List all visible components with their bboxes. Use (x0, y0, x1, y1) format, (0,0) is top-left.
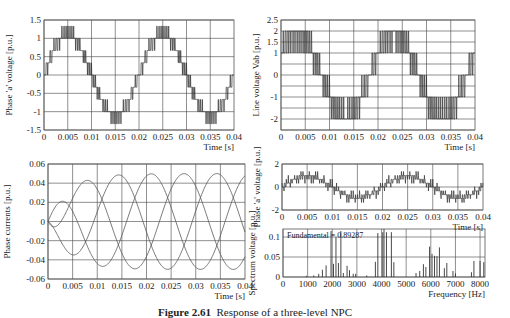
x-axis-label: Time [s] (215, 291, 245, 301)
y-tick-label: 1 (37, 33, 42, 43)
y-tick-label: -2 (271, 114, 279, 124)
y-tick-label: -0.04 (26, 255, 45, 265)
y-tick-label: -0.5 (27, 88, 42, 98)
y-tick-label: 0 (275, 182, 280, 192)
x-tick-label: 6000 (422, 279, 441, 289)
x-tick-label: 0.03 (425, 212, 441, 222)
x-tick-label: 8000 (471, 279, 490, 289)
x-tick-label: 0.005 (58, 132, 79, 142)
chart-phase-currents: 00.0050.010.0150.020.0250.030.0350.040.0… (2, 159, 253, 301)
x-tick-label: 0.01 (322, 132, 338, 142)
y-tick-label: -0.02 (26, 236, 45, 246)
y-tick-label: -0.06 (26, 274, 45, 284)
caption-label: Figure 2.61 (158, 306, 211, 318)
x-tick-label: 0.04 (467, 132, 483, 142)
x-tick-label: 0 (279, 132, 284, 142)
x-tick-label: 0.015 (105, 132, 126, 142)
y-tick-label: -2 (272, 205, 280, 215)
x-axis-label: Frequency [Hz] (428, 289, 485, 299)
chart-phase-a-voltage-small: 00.0050.010.0150.020.0250.030.0350.0420-… (252, 147, 491, 232)
x-tick-label: 3000 (348, 279, 367, 289)
x-tick-label: 0.025 (392, 132, 413, 142)
x-tick-label: 0.035 (448, 212, 469, 222)
y-tick-label: 2.5 (267, 15, 279, 25)
x-tick-label: 0.02 (139, 281, 155, 291)
x-tick-label: 0.005 (63, 281, 84, 291)
x-tick-label: 4000 (373, 279, 392, 289)
x-tick-label: 0.005 (297, 212, 318, 222)
y-tick-label: 0 (276, 272, 281, 282)
y-axis-label: Phase 'a' voltage [p.u.] (4, 35, 14, 116)
y-tick-label: 0 (37, 70, 42, 80)
x-tick-label: 0.02 (131, 132, 147, 142)
y-tick-label: 0.06 (29, 159, 45, 169)
y-axis-label: Spectrum voltage [p.u.] (247, 211, 257, 296)
x-tick-label: 0.035 (200, 132, 221, 142)
x-tick-label: 0.02 (375, 212, 391, 222)
x-tick-label: 0.015 (344, 132, 365, 142)
x-tick-label: 0.025 (398, 212, 419, 222)
y-tick-label: 1.5 (267, 37, 279, 47)
figure-caption: Figure 2.61 Response of a three-level NP… (0, 306, 510, 318)
x-tick-label: 0.03 (179, 132, 195, 142)
x-tick-label: 0.03 (419, 132, 435, 142)
y-axis-label: Phase currents [p.u.] (2, 185, 12, 259)
x-tick-label: 0.015 (347, 212, 368, 222)
y-tick-label: 1.5 (30, 15, 42, 25)
y-tick-label: 0.05 (264, 252, 280, 262)
x-axis-label: Time [s] (453, 222, 483, 232)
x-tick-label: 0 (42, 132, 47, 142)
x-axis-label: Time [s] (445, 142, 475, 152)
fundamental-annotation: Fundamental = 0.89287 (287, 231, 363, 240)
x-tick-label: 5000 (397, 279, 416, 289)
x-tick-label: 0.03 (188, 281, 204, 291)
x-tick-label: 0.01 (89, 281, 105, 291)
x-tick-label: 0.025 (153, 132, 174, 142)
y-tick-label: 0 (41, 217, 46, 227)
x-tick-label: 0.04 (226, 132, 242, 142)
x-tick-label: 0.01 (84, 132, 100, 142)
x-tick-label: 7000 (446, 279, 465, 289)
y-tick-label: 0.02 (29, 197, 45, 207)
x-tick-label: 0 (280, 212, 285, 222)
x-tick-label: 1000 (299, 279, 318, 289)
y-tick-label: 0.5 (30, 52, 42, 62)
x-tick-label: 0.015 (112, 281, 133, 291)
y-tick-label: -1 (34, 107, 42, 117)
x-tick-label: 0.02 (370, 132, 386, 142)
y-tick-label: 0.04 (29, 178, 45, 188)
x-tick-label: 0.035 (210, 281, 231, 291)
y-tick-label: -1.5 (27, 125, 42, 135)
chart-phase-a-voltage: 00.0050.010.0150.020.0250.030.0350.041.5… (4, 15, 242, 152)
y-tick-label: 0.1 (269, 232, 280, 242)
x-tick-label: 0.01 (324, 212, 340, 222)
x-tick-label: 0.035 (441, 132, 462, 142)
y-tick-label: -1 (271, 92, 279, 102)
x-tick-label: 2000 (323, 279, 342, 289)
x-tick-label: 0.005 (295, 132, 316, 142)
y-tick-label: 2 (275, 159, 280, 169)
x-tick-label: 0 (281, 279, 286, 289)
y-tick-label: 0 (274, 70, 279, 80)
x-tick-label: 0.04 (475, 212, 491, 222)
x-axis-label: Time [s] (204, 142, 234, 152)
y-tick-label: 1 (274, 48, 279, 58)
x-tick-label: 0 (46, 281, 51, 291)
caption-text: Response of a three-level NPC (216, 306, 352, 318)
x-tick-label: 0.025 (161, 281, 182, 291)
chart-line-voltage-vab: 00.0050.010.0150.020.0250.030.0350.042.5… (251, 15, 483, 152)
y-tick-label: 2 (274, 26, 279, 36)
y-axis-label: Line voltage Vab [p.u.] (251, 33, 261, 116)
